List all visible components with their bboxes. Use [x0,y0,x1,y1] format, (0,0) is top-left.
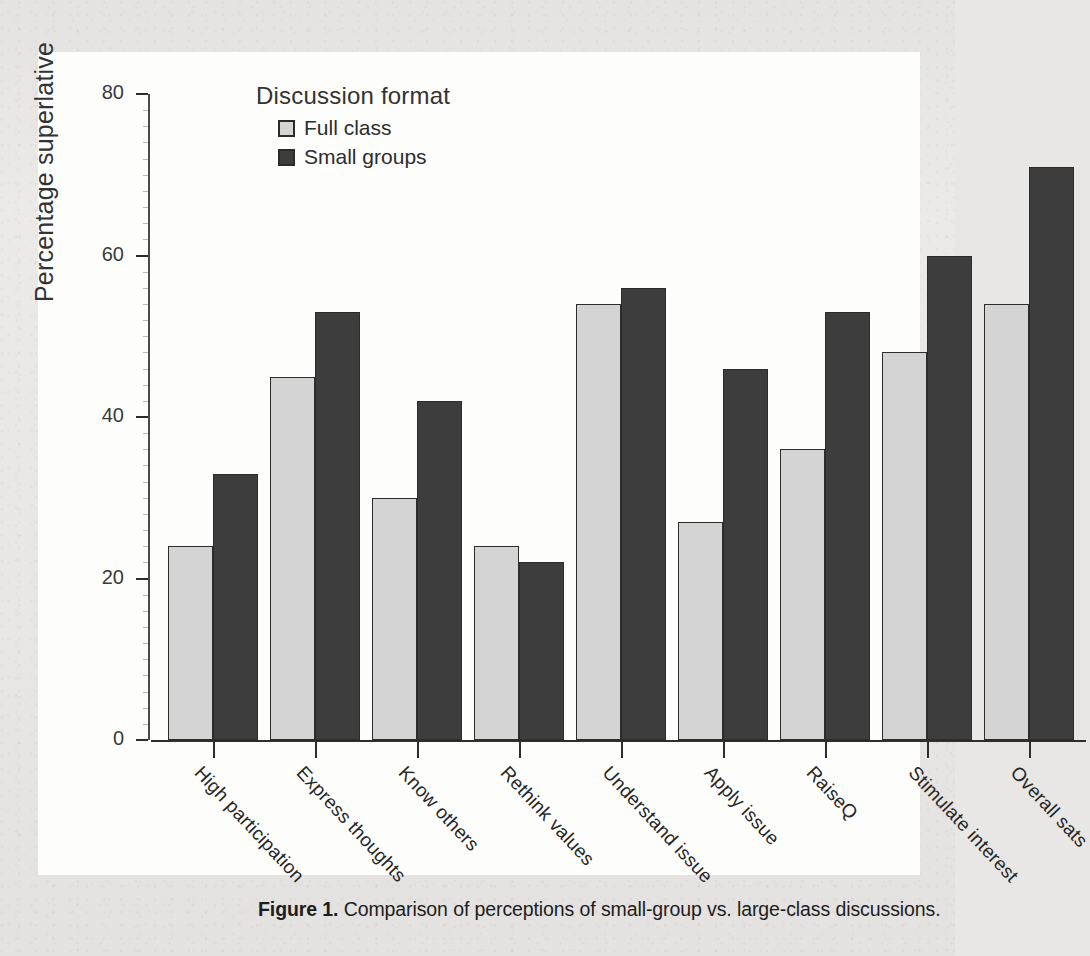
y-axis-minor-tick [143,126,148,127]
x-axis-label: Rethink values [496,762,599,870]
y-axis-tick-label: 0 [74,727,124,750]
x-axis-tick [417,742,419,758]
y-axis-label: Percentage superlative [30,0,59,302]
x-axis-label: Know others [394,762,484,856]
x-axis-tick [723,742,725,758]
y-axis-minor-tick [143,159,148,160]
x-axis-label: Overall sats [1006,762,1090,852]
y-axis-tick [136,739,148,741]
y-axis-tick [136,416,148,418]
bar-full-class [780,449,825,740]
legend-item: Small groups [278,145,450,169]
legend-title: Discussion format [256,82,450,110]
y-axis-minor-tick [143,708,148,709]
y-axis-minor-tick [143,223,148,224]
y-axis-line [148,94,150,740]
y-axis-minor-tick [143,110,148,111]
x-axis-label: High participation [190,762,309,887]
y-axis-minor-tick [143,465,148,466]
caption-text: Comparison of perceptions of small-group… [338,898,940,920]
legend-entries: Full classSmall groups [256,116,450,169]
bar-small-groups [213,474,258,740]
legend: Discussion format Full classSmall groups [256,82,450,174]
y-axis-minor-tick [143,627,148,628]
y-axis-minor-tick [143,433,148,434]
legend-item-label: Full class [304,116,392,140]
bar-small-groups [315,312,360,740]
legend-swatch-icon [278,120,295,137]
y-axis-minor-tick [143,191,148,192]
y-axis-minor-tick [143,659,148,660]
bar-small-groups [1029,167,1074,740]
legend-swatch-icon [278,149,295,166]
x-axis-tick [213,742,215,758]
x-axis-tick [315,742,317,758]
y-axis-tick-label: 80 [74,81,124,104]
y-axis-minor-tick [143,288,148,289]
y-axis-tick-label: 40 [74,404,124,427]
y-axis-minor-tick [143,272,148,273]
x-axis-label: Understand issue [598,762,717,887]
y-axis-minor-tick [143,643,148,644]
y-axis-minor-tick [143,482,148,483]
y-axis-minor-tick [143,207,148,208]
bar-small-groups [825,312,870,740]
y-axis-minor-tick [143,595,148,596]
y-axis-minor-tick [143,385,148,386]
y-axis-minor-tick [143,724,148,725]
bar-full-class [678,522,723,740]
y-axis-tick [136,578,148,580]
x-axis-line [151,740,1086,742]
y-axis-minor-tick [143,175,148,176]
legend-item-label: Small groups [304,145,427,169]
y-axis-minor-tick [143,142,148,143]
bar-small-groups [723,369,768,740]
bar-full-class [168,546,213,740]
y-axis-tick [136,93,148,95]
y-axis-minor-tick [143,239,148,240]
y-axis-minor-tick [143,498,148,499]
bar-full-class [576,304,621,740]
plot-area: Percentage superlative 020406080 High pa… [38,52,920,875]
y-axis-minor-tick [143,401,148,402]
bar-full-class [372,498,417,740]
bar-full-class [984,304,1029,740]
x-axis-label: Express thoughts [292,762,410,887]
bar-full-class [882,352,927,740]
x-axis-label: Apply issue [700,762,784,850]
y-axis-minor-tick [143,692,148,693]
figure-panel: Percentage superlative 020406080 High pa… [38,52,920,875]
x-axis-label: RaiseQ [802,762,862,824]
legend-item: Full class [278,116,450,140]
figure-caption: Figure 1. Comparison of perceptions of s… [258,898,940,921]
y-axis-tick-label: 60 [74,243,124,266]
y-axis-minor-tick [143,320,148,321]
y-axis-minor-tick [143,369,148,370]
bar-small-groups [519,562,564,740]
y-axis-minor-tick [143,530,148,531]
x-axis-tick [1029,742,1031,758]
y-axis-minor-tick [143,304,148,305]
y-axis-minor-tick [143,449,148,450]
y-axis-minor-tick [143,352,148,353]
x-axis-tick [621,742,623,758]
x-axis-tick [519,742,521,758]
bar-full-class [474,546,519,740]
bar-small-groups [927,256,972,741]
y-axis-minor-tick [143,336,148,337]
x-axis-tick [927,742,929,758]
caption-label: Figure 1. [258,898,338,920]
y-axis-minor-tick [143,546,148,547]
y-axis-minor-tick [143,675,148,676]
bar-small-groups [417,401,462,740]
y-axis-minor-tick [143,514,148,515]
bar-full-class [270,377,315,740]
bar-small-groups [621,288,666,740]
y-axis-tick [136,255,148,257]
y-axis-minor-tick [143,611,148,612]
x-axis-tick [825,742,827,758]
y-axis-minor-tick [143,562,148,563]
y-axis-tick-label: 20 [74,566,124,589]
